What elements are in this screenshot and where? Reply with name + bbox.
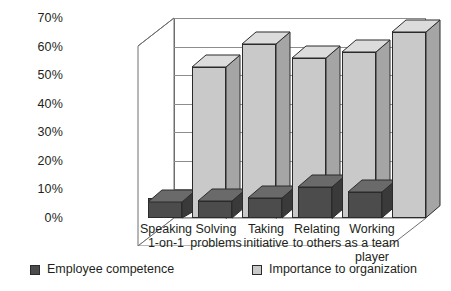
chart-legend: Employee competence Importance to organi… xyxy=(0,258,451,284)
x-tick-label-taking-initiative: Taking initiative xyxy=(238,222,294,250)
bar-3d-faces xyxy=(248,182,296,218)
x-tick-label-line: Speaking xyxy=(138,222,194,236)
bar-chart: 70% 60% 50% 40% 30% 20% 10% 0% xyxy=(0,0,451,291)
x-tick-label-line: Working xyxy=(340,222,404,236)
bar-series-layer xyxy=(0,0,451,246)
x-tick-label-line: to others xyxy=(288,236,346,250)
x-tick-label-line: as a team xyxy=(340,236,404,250)
bar-employee-competence xyxy=(148,198,182,218)
bar-employee-competence xyxy=(248,198,282,218)
legend-label: Importance to organization xyxy=(269,263,417,276)
legend-item-importance-to-organization: Importance to organization xyxy=(252,263,417,276)
bar-importance-to-organization xyxy=(392,32,426,218)
x-tick-label-relating-to-others: Relating to others xyxy=(288,222,346,250)
x-tick-label-line: problems xyxy=(188,236,244,250)
x-tick-label-line: Taking xyxy=(238,222,294,236)
plot-area: 70% 60% 50% 40% 30% 20% 10% 0% xyxy=(0,0,451,246)
bar-group xyxy=(348,18,432,218)
bar-3d-faces xyxy=(392,16,440,218)
bar-3d-faces xyxy=(298,171,346,218)
x-tick-label-line: initiative xyxy=(238,236,294,250)
bar-employee-competence xyxy=(198,201,232,218)
bar-employee-competence xyxy=(298,187,332,218)
bar-employee-competence xyxy=(348,192,382,218)
x-tick-label-line: 1-on-1 xyxy=(138,236,194,250)
x-tick-label-line: Relating xyxy=(288,222,346,236)
bar-3d-faces xyxy=(348,176,396,218)
legend-swatch-icon xyxy=(30,265,40,275)
x-tick-label-speaking-1-on-1: Speaking 1-on-1 xyxy=(138,222,194,250)
bar-3d-faces xyxy=(198,185,246,218)
bar-3d-faces xyxy=(148,182,196,218)
x-tick-label-solving-problems: Solving problems xyxy=(188,222,244,250)
legend-swatch-icon xyxy=(252,265,262,275)
legend-label: Employee competence xyxy=(47,263,174,276)
x-tick-label-line: Solving xyxy=(188,222,244,236)
legend-item-employee-competence: Employee competence xyxy=(30,263,174,276)
